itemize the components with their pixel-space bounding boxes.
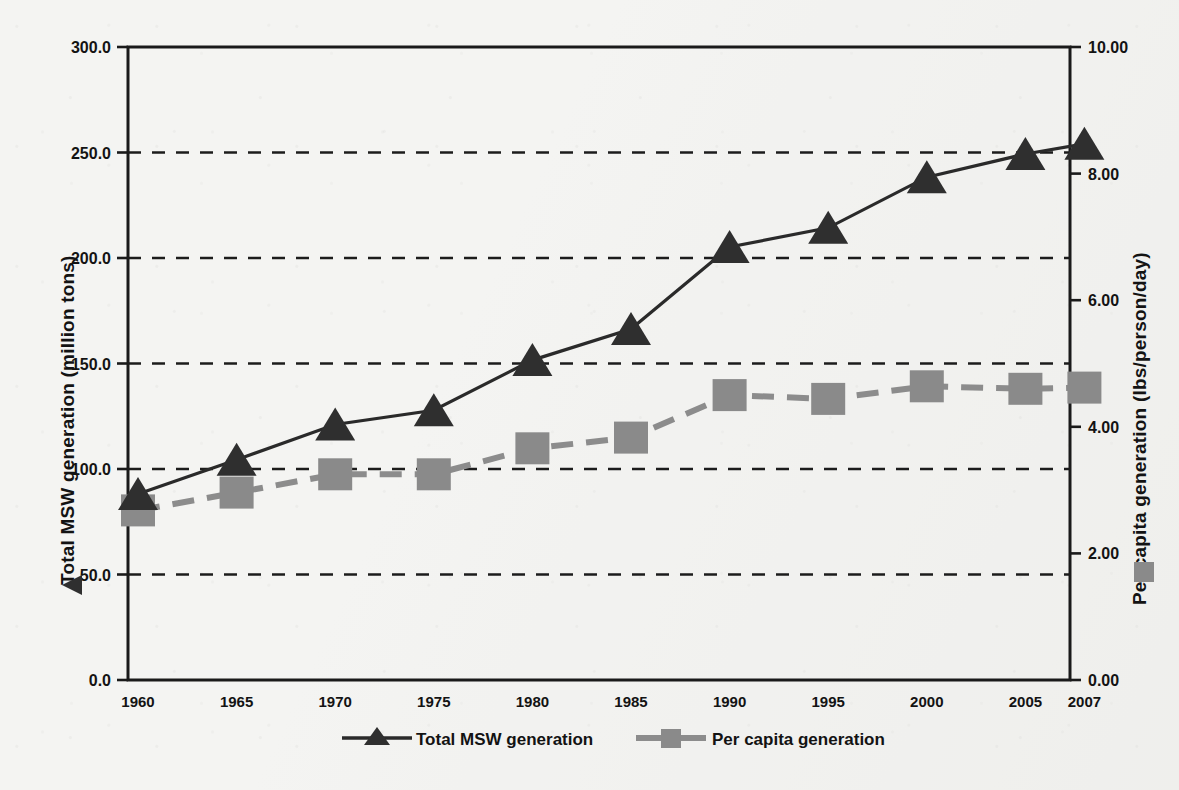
right-axis-tick-label: 8.00 <box>1088 166 1119 183</box>
chart-legend: Total MSW generation Per capita generati… <box>342 727 885 749</box>
right-axis-tick-label: 10.00 <box>1088 39 1128 56</box>
legend-square-icon <box>661 729 681 748</box>
right-axis-tick-label: 4.00 <box>1088 419 1119 436</box>
left-axis-ticks-group <box>117 47 128 680</box>
legend-item-per-capita-generation[interactable]: Per capita generation <box>636 729 885 749</box>
per-capita-square-marker <box>713 379 747 411</box>
right-axis-tick-label: 6.00 <box>1088 292 1119 309</box>
x-axis-tick-label: 1960 <box>121 693 154 710</box>
legend-label-total: Total MSW generation <box>416 730 593 749</box>
left-axis-tick-label: 300.0 <box>71 39 111 56</box>
per-capita-square-marker <box>811 383 845 415</box>
left-axis-tick-label: 0.0 <box>89 672 111 689</box>
x-axis-tick-label: 1980 <box>516 693 549 710</box>
total-msw-triangle-marker <box>1005 137 1045 170</box>
legend-item-total-msw-generation[interactable]: Total MSW generation <box>342 727 593 749</box>
x-axis-tick-label: 2007 <box>1068 693 1101 710</box>
msw-generation-chart: 0.050.0100.0150.0200.0250.0300.0 0.002.0… <box>0 0 1179 790</box>
per-capita-square-marker <box>220 477 254 509</box>
right-axis-tick-labels-group: 0.002.004.006.008.0010.00 <box>1088 39 1128 689</box>
per-capita-square-marker <box>417 458 451 490</box>
x-axis-tick-label: 1970 <box>319 693 352 710</box>
chart-svg: 0.050.0100.0150.0200.0250.0300.0 0.002.0… <box>0 0 1179 790</box>
per-capita-line <box>138 386 1084 510</box>
x-axis-tick-label: 1985 <box>614 693 647 710</box>
legend-triangle-icon <box>364 727 390 745</box>
x-axis-tick-label: 1965 <box>220 693 253 710</box>
left-axis-tick-label: 250.0 <box>71 145 111 162</box>
total-msw-triangle-marker <box>907 160 947 193</box>
x-axis-tick-label: 2000 <box>910 693 943 710</box>
per-capita-square-marker <box>1008 373 1042 405</box>
total-msw-triangle-marker <box>512 343 552 376</box>
page-background: 0.050.0100.0150.0200.0250.0300.0 0.002.0… <box>0 0 1179 790</box>
total-msw-line <box>138 144 1084 494</box>
right-axis-tick-label: 0.00 <box>1088 672 1119 689</box>
left-axis-title: Total MSW generation (million tons) <box>57 255 78 585</box>
total-msw-triangle-marker <box>217 443 257 476</box>
right-axis-square-icon <box>1134 562 1154 582</box>
series-total-msw-generation <box>118 127 1104 510</box>
total-msw-triangle-marker <box>710 230 750 263</box>
left-axis-tick-label: 50.0 <box>80 567 111 584</box>
x-axis-tick-label: 1995 <box>812 693 845 710</box>
legend-label-capita: Per capita generation <box>712 730 885 749</box>
x-axis-tick-label: 1975 <box>417 693 450 710</box>
per-capita-square-marker <box>1067 372 1101 404</box>
right-axis-tick-label: 2.00 <box>1088 545 1119 562</box>
gridlines-group <box>128 153 1070 575</box>
x-axis-tick-label: 2005 <box>1009 693 1042 710</box>
per-capita-square-marker <box>910 370 944 402</box>
total-msw-triangle-marker <box>414 393 454 426</box>
x-axis-tick-label: 1990 <box>713 693 746 710</box>
x-axis-tick-labels-group: 1960196519701975198019851990199520002005… <box>121 693 1101 710</box>
per-capita-square-marker <box>515 432 549 464</box>
per-capita-square-marker <box>614 422 648 454</box>
right-axis-title: Per capita generation (lbs/person/day) <box>1129 252 1150 605</box>
total-msw-triangle-marker <box>808 211 848 244</box>
per-capita-square-marker <box>318 458 352 490</box>
total-msw-triangle-marker <box>118 477 158 510</box>
